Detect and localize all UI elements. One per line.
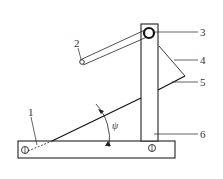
angle-arrow-bottom-icon bbox=[105, 141, 111, 146]
left-bolt-icon bbox=[22, 147, 29, 154]
inclined-line-dashed bbox=[28, 141, 52, 151]
angle-label: ψ bbox=[112, 120, 119, 131]
label-5: 5 bbox=[200, 76, 206, 88]
wedge-edge bbox=[159, 46, 185, 76]
rod-end-pin bbox=[80, 60, 85, 65]
right-bolt-icon bbox=[149, 145, 156, 152]
label-1: 1 bbox=[28, 106, 34, 118]
label-4: 4 bbox=[200, 54, 206, 66]
rod-lower-edge bbox=[83, 37, 147, 65]
rod-upper-edge bbox=[80, 30, 145, 60]
mechanism-diagram: ψ 1 2 3 4 5 6 bbox=[0, 0, 223, 179]
vertical-post bbox=[141, 24, 158, 141]
label-2: 2 bbox=[74, 37, 80, 49]
label-6: 6 bbox=[200, 128, 206, 140]
leader-2 bbox=[78, 48, 81, 59]
base-bar bbox=[18, 141, 175, 158]
label-3: 3 bbox=[200, 26, 206, 38]
inclined-line-extension bbox=[158, 76, 185, 90]
